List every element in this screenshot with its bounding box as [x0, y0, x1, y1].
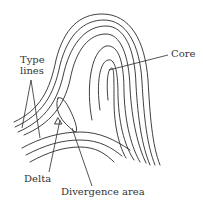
- type-lines-label-1: Type: [20, 55, 45, 65]
- fingerprint-diagram: Type lines Core Delta Divergence area: [0, 0, 203, 205]
- leader-lines: [22, 55, 168, 186]
- core-label: Core: [171, 49, 195, 59]
- delta-label: Delta: [24, 174, 51, 184]
- loop-ridges: [14, 14, 160, 165]
- divergence-area-label: Divergence area: [61, 187, 145, 197]
- type-lines-label-2: lines: [20, 66, 44, 76]
